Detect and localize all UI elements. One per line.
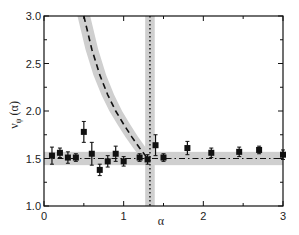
y-tick-label: 3.0 bbox=[26, 10, 41, 22]
y-tick-label: 1.5 bbox=[26, 153, 41, 165]
data-point bbox=[145, 156, 151, 162]
data-point bbox=[184, 145, 190, 151]
y-tick-label: 1.0 bbox=[26, 200, 41, 212]
y-tick-label: 2.5 bbox=[26, 58, 41, 70]
x-axis-label: α bbox=[158, 214, 165, 228]
data-point bbox=[105, 158, 111, 164]
x-tick-label: 0 bbox=[41, 210, 47, 222]
data-point bbox=[256, 147, 262, 153]
data-point bbox=[81, 129, 87, 135]
data-point bbox=[65, 155, 71, 161]
plot-frame bbox=[44, 16, 283, 206]
data-point bbox=[236, 149, 242, 155]
confidence-bands bbox=[44, 16, 283, 206]
data-point bbox=[49, 153, 55, 159]
x-tick-label: 3 bbox=[280, 210, 286, 222]
axis-ticks: 01231.01.52.02.53.0 bbox=[26, 10, 286, 222]
data-point bbox=[208, 150, 214, 156]
svg-text:νψ (α): νψ (α) bbox=[7, 101, 23, 129]
data-point bbox=[113, 151, 119, 157]
data-point bbox=[161, 155, 167, 161]
chart: 01231.01.52.02.53.0 α νψ (α) bbox=[0, 0, 299, 235]
x-tick-label: 1 bbox=[121, 210, 127, 222]
data-point bbox=[121, 158, 127, 164]
data-point bbox=[57, 150, 63, 156]
y-tick-label: 2.0 bbox=[26, 105, 41, 117]
data-points bbox=[49, 121, 286, 175]
data-point bbox=[73, 155, 79, 161]
data-point bbox=[153, 142, 159, 148]
data-point bbox=[97, 167, 103, 173]
x-tick-label: 2 bbox=[200, 210, 206, 222]
fit-lines bbox=[44, 16, 283, 206]
data-point bbox=[137, 155, 143, 161]
data-point bbox=[89, 151, 95, 157]
y-axis-label: νψ (α) bbox=[7, 101, 23, 129]
